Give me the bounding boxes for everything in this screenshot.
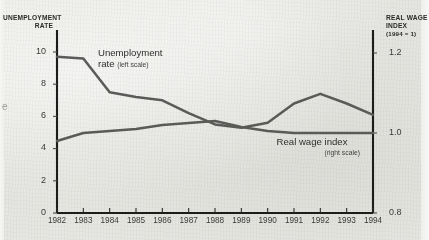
series-label-unemployment: Unemployment rate (left scale) [98, 47, 163, 70]
left-tick-2: 2 [24, 175, 46, 185]
left-axis-header-line2: RATE [3, 22, 53, 30]
x-tick-1994: 1994 [358, 216, 388, 225]
series-scale-note-unemployment: (left scale) [117, 61, 148, 68]
right-axis-header-line2: INDEX [386, 22, 429, 30]
series-label-real-wage: Real wage index (right scale) [258, 136, 366, 158]
right-tick-1-2: 1.2 [389, 47, 415, 57]
left-tick-6: 6 [24, 110, 46, 120]
left-tick-4: 4 [24, 142, 46, 152]
series-scale-note-real-wage: (right scale) [258, 147, 366, 158]
right-tick-1-0: 1.0 [389, 127, 415, 137]
right-axis-header-line3: (1994 = 1) [386, 30, 429, 38]
right-axis-header-line1: REAL WAGE [386, 14, 429, 22]
left-tick-10: 10 [24, 46, 46, 56]
left-axis-header: UNEMPLOYMENT RATE [3, 14, 53, 30]
margin-cut-glyph: e [2, 101, 8, 112]
left-axis-header-line1: UNEMPLOYMENT [3, 14, 53, 22]
left-tick-8: 8 [24, 78, 46, 88]
page-edge-left [0, 0, 4, 240]
series-label-unemployment-line1: Unemployment [98, 47, 163, 58]
series-label-real-wage-line1: Real wage index [258, 136, 366, 147]
chart-figure: UNEMPLOYMENT RATE REAL WAGE INDEX (1994 … [0, 0, 429, 240]
plot-area [0, 0, 429, 240]
series-label-unemployment-line2: rate (left scale) [98, 58, 163, 70]
right-axis-header: REAL WAGE INDEX (1994 = 1) [386, 14, 429, 39]
right-tick-0-8: 0.8 [389, 207, 415, 217]
